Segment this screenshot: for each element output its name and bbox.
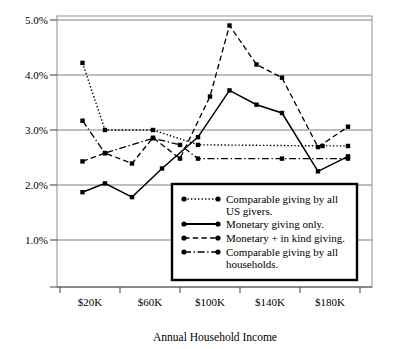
data-point-marker	[80, 119, 84, 123]
x-tick-label: $20K	[78, 296, 103, 308]
data-point-marker	[151, 136, 155, 140]
data-point-marker	[178, 143, 182, 147]
data-point-marker	[103, 128, 107, 132]
data-point-marker	[280, 156, 284, 160]
data-point-marker	[346, 144, 350, 148]
data-point-marker	[280, 111, 284, 115]
x-tick-label: $100K	[195, 296, 225, 308]
data-point-marker	[280, 76, 284, 80]
line-chart: 5.0%4.0%3.0%2.0%1.0% $20K$60K$100K$140K$…	[0, 0, 394, 349]
data-point-marker	[130, 161, 134, 165]
legend-label: Comparable giving by all	[226, 193, 338, 205]
data-point-marker	[346, 156, 350, 160]
data-point-marker	[151, 128, 155, 132]
legend-label: Comparable giving by all	[226, 246, 338, 258]
x-tick-label: $60K	[138, 296, 163, 308]
data-point-marker	[254, 62, 258, 66]
data-point-marker	[196, 135, 200, 139]
data-point-marker	[103, 181, 107, 185]
data-point-marker	[196, 156, 200, 160]
chart-legend: Comparable giving by allUS givers.Moneta…	[172, 184, 357, 280]
legend-swatch-marker	[181, 196, 186, 201]
legend-swatch-marker	[181, 249, 186, 254]
data-point-marker	[227, 23, 231, 27]
legend-swatch-marker	[181, 235, 186, 240]
x-axis-title: Annual Household Income	[153, 331, 277, 343]
x-tick-label: $140K	[255, 296, 285, 308]
data-point-marker	[208, 94, 212, 98]
legend-swatch-marker	[215, 249, 220, 254]
x-tick-label: $180K	[315, 296, 345, 308]
data-point-marker	[103, 151, 107, 155]
legend-swatch-marker	[215, 235, 220, 240]
y-tick-label: 1.0%	[25, 234, 48, 246]
legend-label-continued: households.	[226, 258, 279, 270]
legend-label-continued: US givers.	[226, 205, 273, 217]
data-point-marker	[227, 88, 231, 92]
data-point-marker	[130, 195, 134, 199]
legend-label: Monetary giving only.	[226, 218, 324, 230]
legend-swatch-marker	[181, 221, 186, 226]
chart-container: 5.0%4.0%3.0%2.0%1.0% $20K$60K$100K$140K$…	[0, 0, 394, 349]
data-point-marker	[80, 159, 84, 163]
data-point-marker	[80, 190, 84, 194]
y-tick-label: 4.0%	[25, 69, 48, 81]
legend-label: Monetary + in kind giving.	[226, 232, 345, 244]
data-point-marker	[178, 156, 182, 160]
y-tick-label: 3.0%	[25, 124, 48, 136]
data-point-marker	[346, 125, 350, 129]
data-point-marker	[316, 169, 320, 173]
legend-swatch-marker	[215, 221, 220, 226]
data-point-marker	[80, 61, 84, 65]
data-point-marker	[196, 143, 200, 147]
data-point-marker	[160, 166, 164, 170]
legend-swatch-marker	[215, 196, 220, 201]
y-tick-label: 5.0%	[25, 14, 48, 26]
y-tick-label: 2.0%	[25, 179, 48, 191]
data-point-marker	[254, 103, 258, 107]
data-point-marker	[316, 145, 320, 149]
